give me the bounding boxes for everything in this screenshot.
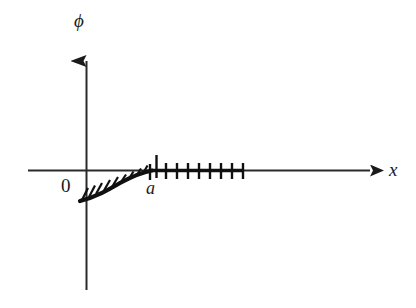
curve-phi-of-x — [80, 171, 152, 202]
plot-svg — [0, 0, 416, 308]
point-a-label: a — [146, 178, 155, 199]
potential-curve — [80, 171, 243, 202]
x-axis-label: x — [389, 159, 397, 181]
figure-canvas: ϕ x 0 a — [0, 0, 416, 308]
y-axis-label: ϕ — [74, 10, 84, 32]
origin-label: 0 — [61, 175, 71, 197]
